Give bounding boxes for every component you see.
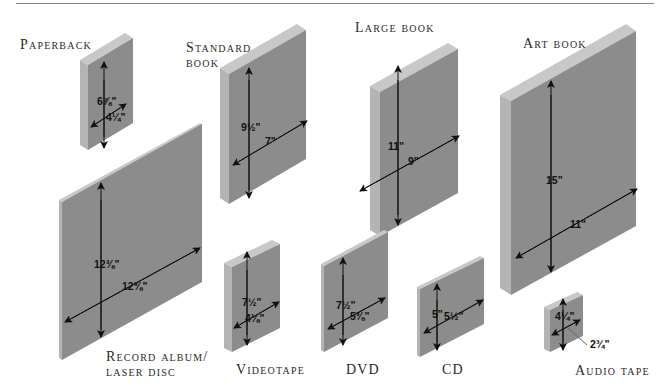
videotape-height: 7½" [242,296,262,308]
standard-width: 7" [265,135,276,147]
label-dvd: DVD [346,362,380,377]
label-standard-line2: book [186,55,251,70]
audio-width: 2¾" [590,338,610,350]
label-large-book: Large book [355,20,435,35]
dvd [321,230,388,352]
paperback-height: 6⅞" [97,95,117,107]
cd [417,256,484,357]
label-audio-tape: Audio tape [575,363,650,378]
paperback-width: 4¼" [106,111,126,123]
large-width: 9" [408,155,419,167]
large-height: 11" [388,140,404,152]
videotape-width: 4⅛" [245,312,265,324]
standard-height: 9½" [241,121,261,133]
label-record-line1: Record album/ [106,349,208,364]
art-book [500,24,637,295]
label-cd: CD [442,362,464,377]
record-height: 12⅜" [94,258,119,270]
label-record-line2: laser disc [106,364,208,379]
art-height: 15" [546,174,563,186]
diagram-canvas: 6⅞" 4¼" 9½" 7" 11" 9" 15" 11" 12⅜" 12⅜" … [0,0,664,392]
label-paperback: Paperback [20,37,92,52]
record-width: 12⅜" [122,280,147,292]
label-standard-line1: Standard [186,40,251,55]
audio-tape [544,292,587,352]
cd-width: 5½" [444,310,464,322]
label-standard-book: Standard book [186,40,251,70]
audio-height: 4¼" [555,310,575,322]
label-videotape: Videotape [236,362,305,377]
large-book [360,43,459,236]
art-width: 11" [570,218,586,230]
label-record-album: Record album/ laser disc [106,349,208,379]
media-size-diagram: 6⅞" 4¼" 9½" 7" 11" 9" 15" 11" 12⅜" 12⅜" … [0,0,664,392]
dvd-width: 5⅜" [350,310,370,322]
cd-height: 5" [432,308,443,320]
label-art-book: Art book [523,36,587,51]
record-album [59,123,203,360]
